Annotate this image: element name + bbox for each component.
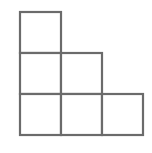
square-r2-c2 <box>102 94 143 135</box>
square-r2-c0 <box>20 94 61 135</box>
staircase-squares-diagram <box>0 0 152 153</box>
square-r0-c0 <box>20 12 61 53</box>
square-r1-c1 <box>61 53 102 94</box>
square-r2-c1 <box>61 94 102 135</box>
squares-group <box>20 12 143 135</box>
square-r1-c0 <box>20 53 61 94</box>
